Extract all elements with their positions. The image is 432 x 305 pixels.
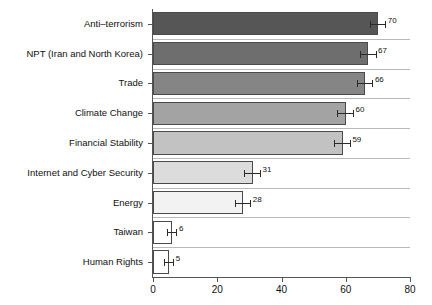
error-bar-cap-right: [372, 80, 373, 87]
gridline: [153, 98, 410, 99]
gridline: [153, 217, 410, 218]
error-bar-line: [360, 54, 377, 55]
gridline: [153, 188, 410, 189]
x-axis-tick-label: 0: [150, 284, 156, 295]
x-axis-tick: [217, 277, 218, 282]
category-label: Internet and Cyber Security: [27, 168, 143, 178]
x-axis-tick: [153, 277, 154, 282]
plot-area: 0204060807067666059312865: [153, 9, 410, 277]
y-axis-tick: [148, 83, 153, 84]
bar: [153, 42, 368, 65]
error-bar-line: [337, 113, 354, 114]
x-axis-tick-label: 20: [212, 284, 223, 295]
y-axis-tick: [148, 24, 153, 25]
bar-value-label: 6: [179, 225, 183, 233]
bar-value-label: 67: [378, 47, 387, 55]
error-bar-cap-left: [167, 229, 168, 236]
y-axis-tick: [148, 262, 153, 263]
category-label: Climate Change: [75, 108, 143, 118]
bar-chart: Anti–terrorismNPT (Iran and North Korea)…: [0, 0, 432, 305]
y-axis-tick: [148, 113, 153, 114]
bar: [153, 102, 346, 125]
error-bar-cap-left: [370, 21, 371, 28]
category-label: Energy: [113, 198, 143, 208]
x-axis-tick-label: 60: [340, 284, 351, 295]
error-bar-cap-right: [353, 110, 354, 117]
error-bar-cap-left: [357, 80, 358, 87]
error-bar-cap-right: [260, 170, 261, 177]
error-bar-cap-right: [385, 21, 386, 28]
y-axis-tick: [148, 232, 153, 233]
bar: [153, 191, 243, 214]
y-axis-tick: [148, 173, 153, 174]
error-bar-line: [357, 83, 374, 84]
bar: [153, 12, 378, 35]
category-label: Taiwan: [113, 227, 143, 237]
category-label: Financial Stability: [69, 138, 143, 148]
error-bar-cap-left: [235, 200, 236, 207]
bar-value-label: 70: [388, 17, 397, 25]
error-bar-cap-left: [360, 51, 361, 58]
x-axis-tick: [282, 277, 283, 282]
bar-value-label: 31: [262, 166, 271, 174]
bar-value-label: 28: [253, 196, 262, 204]
x-axis-tick: [410, 277, 411, 282]
error-bar-line: [370, 24, 387, 25]
y-axis-tick: [148, 203, 153, 204]
category-label: Anti–terrorism: [84, 19, 143, 29]
gridline: [153, 128, 410, 129]
error-bar-cap-left: [337, 110, 338, 117]
x-axis-tick-label: 40: [276, 284, 287, 295]
bar: [153, 72, 365, 95]
category-label: Trade: [119, 78, 143, 88]
bar-value-label: 59: [352, 136, 361, 144]
gridline: [153, 39, 410, 40]
error-bar-cap-right: [350, 140, 351, 147]
y-axis-tick: [148, 143, 153, 144]
gridline: [153, 247, 410, 248]
category-label: NPT (Iran and North Korea): [26, 49, 143, 59]
category-label: Human Rights: [83, 257, 143, 267]
error-bar-cap-right: [250, 200, 251, 207]
error-bar-cap-left: [334, 140, 335, 147]
error-bar-cap-right: [376, 51, 377, 58]
category-label-column: Anti–terrorismNPT (Iran and North Korea)…: [0, 0, 143, 305]
error-bar-line: [244, 173, 261, 174]
bar-value-label: 60: [356, 106, 365, 114]
error-bar-cap-right: [173, 259, 174, 266]
bar: [153, 161, 253, 184]
y-axis-tick: [148, 54, 153, 55]
bar: [153, 131, 343, 154]
error-bar-cap-left: [164, 259, 165, 266]
error-bar-line: [334, 143, 351, 144]
error-bar-cap-right: [176, 229, 177, 236]
gridline: [153, 158, 410, 159]
gridline: [153, 69, 410, 70]
bar-value-label: 66: [375, 76, 384, 84]
error-bar-line: [235, 203, 252, 204]
x-axis-tick: [346, 277, 347, 282]
bar-value-label: 5: [176, 255, 180, 263]
error-bar-cap-left: [244, 170, 245, 177]
x-axis-tick-label: 80: [404, 284, 415, 295]
